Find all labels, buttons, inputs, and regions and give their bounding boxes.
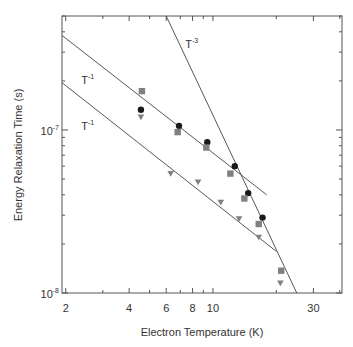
data-point-triangle [138, 115, 145, 121]
x-tick-label: 30 [307, 302, 319, 314]
data-point-circle [138, 107, 144, 113]
data-point-square [256, 221, 262, 227]
data-point-square [174, 129, 180, 135]
fit-line [62, 83, 276, 252]
data-point-square [241, 195, 247, 201]
data-point-circle [176, 123, 182, 129]
x-tick-label: 10 [207, 302, 219, 314]
y-tick-label: 10-8 [41, 287, 59, 300]
line-annotation: T-3 [185, 37, 198, 50]
x-tick-label: 6 [163, 302, 169, 314]
data-point-square [278, 268, 284, 274]
data-point-square [139, 88, 145, 94]
data-point-circle [259, 214, 265, 220]
y-tick-label: 10-7 [41, 123, 59, 136]
data-point-triangle [195, 179, 202, 185]
line-annotation: T-1 [81, 119, 94, 132]
plot-frame [62, 16, 342, 293]
data-point-square [203, 144, 209, 150]
data-point-triangle [236, 216, 243, 222]
data-point-triangle [167, 171, 174, 177]
fit-line [62, 35, 267, 194]
line-annotation: T-1 [81, 73, 94, 86]
data-point-circle [232, 163, 238, 169]
x-tick-label: 2 [63, 302, 69, 314]
x-axis-label: Electron Temperature (K) [141, 326, 264, 338]
data-point-triangle [218, 200, 225, 206]
data-point-triangle [277, 281, 284, 287]
y-axis-label: Energy Relaxation Time (s) [12, 89, 24, 222]
fit-line [166, 16, 297, 293]
x-tick-label: 4 [126, 302, 132, 314]
data-point-square [227, 170, 233, 176]
x-tick-label: 8 [189, 302, 195, 314]
